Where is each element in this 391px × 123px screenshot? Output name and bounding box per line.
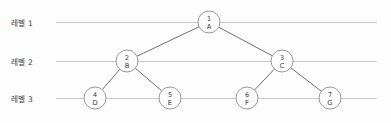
level-lines-group — [56, 22, 377, 98]
tree-edge-A-B — [137, 27, 199, 57]
node-letter-A: A — [207, 23, 212, 31]
tree-node-C[interactable]: 3C — [271, 50, 293, 72]
tree-node-G[interactable]: 7G — [319, 87, 341, 109]
tree-node-F[interactable]: 6F — [236, 87, 258, 109]
node-letter-C: C — [280, 62, 285, 70]
tree-node-E[interactable]: 5E — [159, 87, 181, 109]
tree-node-B[interactable]: 2B — [116, 50, 138, 72]
tree-diagram-svg: 1A2B3C4D5E6F7G — [0, 0, 391, 123]
tree-edge-C-G — [291, 68, 322, 92]
level-label-3: 레벨 3 — [11, 93, 33, 104]
node-letter-E: E — [168, 99, 172, 107]
tree-node-D[interactable]: 4D — [84, 87, 106, 109]
tree-edge-A-C — [219, 27, 273, 56]
node-letter-D: D — [92, 99, 97, 107]
node-letter-B: B — [125, 62, 130, 70]
tree-edge-B-E — [135, 68, 161, 91]
level-label-1: 레벨 1 — [11, 17, 33, 28]
tree-edge-C-F — [255, 69, 275, 90]
node-letter-G: G — [327, 99, 332, 107]
tree-diagram-canvas: 1A2B3C4D5E6F7G 레벨 1 레벨 2 레벨 3 — [0, 0, 391, 123]
level-label-2: 레벨 2 — [11, 56, 33, 67]
tree-node-A[interactable]: 1A — [198, 11, 220, 33]
tree-edge-B-D — [102, 69, 120, 89]
node-letter-F: F — [245, 99, 249, 107]
tree-nodes-group: 1A2B3C4D5E6F7G — [84, 11, 341, 109]
